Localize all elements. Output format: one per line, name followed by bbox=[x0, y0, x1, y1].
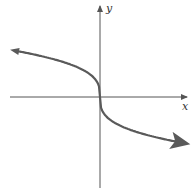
y-axis-label: y bbox=[106, 2, 112, 15]
graph-svg bbox=[0, 0, 194, 188]
x-axis-label: x bbox=[182, 100, 188, 113]
graph: y x bbox=[0, 0, 194, 188]
left-arrowhead bbox=[10, 48, 20, 55]
